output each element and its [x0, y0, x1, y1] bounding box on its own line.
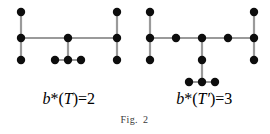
graph-node: [224, 34, 232, 42]
graph-node: [17, 56, 25, 64]
graph-node: [113, 34, 121, 42]
graph-node: [64, 56, 72, 64]
graph-node: [250, 8, 258, 16]
figure-container: b*(T)=2 b*(T′)=3 Fig.2: [0, 0, 269, 134]
graph-node: [250, 56, 258, 64]
graph-node: [250, 34, 258, 42]
caption-left-tree: b*(T)=2: [0, 90, 134, 108]
figure-label-number: 2: [143, 114, 148, 125]
edges-group: [21, 12, 254, 82]
figure-label-prefix: Fig.: [121, 114, 138, 125]
caption-right-tree: b*(T′)=3: [134, 90, 270, 108]
caption-right-value: 3: [224, 90, 232, 107]
graph-node: [146, 8, 154, 16]
graph-node: [146, 34, 154, 42]
graph-node: [51, 56, 59, 64]
caption-right-star: *: [184, 90, 192, 107]
graph-node: [146, 56, 154, 64]
nodes-group: [17, 8, 258, 86]
captions-row: b*(T)=2 b*(T′)=3: [0, 86, 269, 112]
caption-left-tree-symbol: T: [64, 90, 73, 107]
graph-node: [113, 8, 121, 16]
figure-label: Fig.2: [0, 114, 269, 125]
caption-right-b: b: [176, 90, 184, 107]
graph-node: [198, 34, 206, 42]
caption-right-equals: =: [215, 90, 224, 107]
graph-node: [172, 34, 180, 42]
graph-node: [77, 56, 85, 64]
graph-node: [211, 78, 219, 86]
graph-node: [198, 56, 206, 64]
graph-node: [113, 56, 121, 64]
graph-node: [17, 34, 25, 42]
graph-node: [198, 78, 206, 86]
graph-node: [185, 78, 193, 86]
caption-left-value: 2: [87, 90, 95, 107]
caption-left-equals: =: [78, 90, 87, 107]
graph-node: [64, 34, 72, 42]
graph-node: [17, 8, 25, 16]
